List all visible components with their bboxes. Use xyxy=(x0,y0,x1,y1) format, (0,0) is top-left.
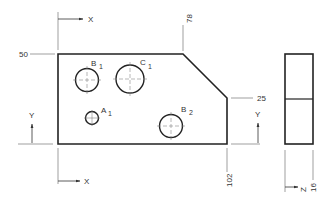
dimension-lines xyxy=(18,12,313,192)
y-axis-label-right: Y xyxy=(255,110,261,119)
y-axis-label-left: Y xyxy=(29,111,35,120)
hole-label-b2-letter: B xyxy=(181,105,186,114)
x-axis-label-bottom: X xyxy=(84,177,90,186)
hole-label-b1-letter: B xyxy=(91,59,96,68)
hole-label-a1-sub: 1 xyxy=(108,110,112,117)
hole-label-a1-letter: A xyxy=(101,106,107,115)
hole-c1 xyxy=(113,62,147,96)
dimension-25: 25 xyxy=(257,94,266,103)
hole-label-c1-sub: 1 xyxy=(148,63,152,70)
hole-b1 xyxy=(73,66,101,94)
dimension-50: 50 xyxy=(19,50,28,59)
axis-arrows xyxy=(32,19,298,187)
side-view xyxy=(285,54,313,144)
dimension-78: 78 xyxy=(185,14,194,23)
hole-label-b2-sub: 2 xyxy=(189,109,193,116)
dimension-16: 16 xyxy=(309,183,318,192)
z-axis-label: Z xyxy=(299,187,308,192)
labels: X 50 78 25 102 Y Y X Z 16 B 1 C 1 A 1 B … xyxy=(19,14,318,192)
hole-b2 xyxy=(157,112,185,140)
front-view xyxy=(58,54,227,144)
part-outline xyxy=(58,54,227,144)
hole-label-c1-letter: C xyxy=(140,58,146,67)
hole-a1 xyxy=(84,110,100,126)
hole-label-b1-sub: 1 xyxy=(99,63,103,70)
holes xyxy=(73,62,185,140)
technical-drawing: X 50 78 25 102 Y Y X Z 16 B 1 C 1 A 1 B … xyxy=(0,0,335,203)
dimension-102: 102 xyxy=(225,173,234,187)
x-axis-label-top: X xyxy=(88,15,94,24)
